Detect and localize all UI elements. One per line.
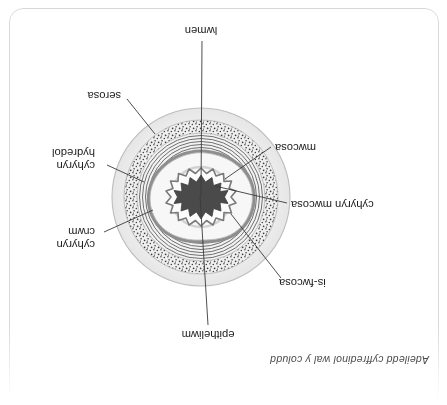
label-epitheliwm-text: epitheliwm [182, 329, 235, 341]
label-serosa: serosa [51, 89, 121, 102]
label-is-fwcosa-text: is-fwcosa [279, 277, 326, 289]
label-cyhyryn-hydredol: cyhyryn hydredol [13, 146, 95, 172]
label-cyhyryn-crwm: cyhyryn crwm [13, 225, 95, 251]
label-cyhyryn-crwm-line1: cyhyryn [13, 238, 95, 251]
label-cyhyryn-mwcosa-text: cyhyryn mwcosa [291, 199, 374, 211]
page-title: Adeiledd cyffredinol wal y coludd [270, 354, 429, 366]
label-is-fwcosa: is-fwcosa [279, 276, 351, 289]
label-lwmen-text: lwmen [185, 25, 217, 37]
label-cyhyryn-hydredol-line2: hydredol [13, 146, 95, 159]
label-epitheliwm: epitheliwm [162, 328, 254, 341]
label-cyhyryn-mwcosa: cyhyryn mwcosa [291, 198, 411, 211]
label-mwcosa: mwcosa [275, 141, 347, 154]
label-cyhyryn-hydredol-line1: cyhyryn [13, 159, 95, 172]
label-mwcosa-text: mwcosa [275, 142, 316, 154]
label-serosa-text: serosa [87, 90, 121, 102]
label-cyhyryn-crwm-line2: crwm [13, 225, 95, 238]
label-lwmen: lwmen [156, 24, 246, 37]
